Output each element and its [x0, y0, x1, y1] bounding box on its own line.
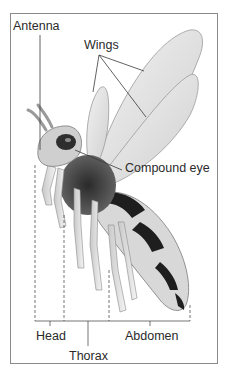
wasp-illustration	[0, 0, 229, 376]
label-thorax: Thorax	[69, 350, 108, 363]
label-head: Head	[36, 330, 66, 343]
abdomen-illustration	[93, 192, 189, 310]
head-illustration	[28, 105, 82, 166]
label-abdomen: Abdomen	[125, 330, 179, 343]
label-antenna: Antenna	[13, 20, 60, 33]
label-compound-eye: Compound eye	[125, 162, 210, 175]
label-wings: Wings	[84, 39, 119, 52]
